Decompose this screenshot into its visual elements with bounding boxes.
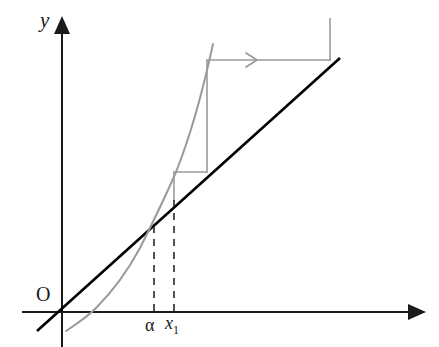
identity-line [37, 58, 340, 331]
function-curve [66, 44, 213, 331]
y-axis-label: y [40, 10, 49, 31]
x1-tick-label-subscript: 1 [173, 323, 179, 337]
x1-tick-label: x1 [165, 314, 179, 336]
figure-canvas: y O α x1 [0, 0, 439, 347]
x1-tick-label-base: x [165, 313, 173, 333]
alpha-tick-label: α [145, 316, 154, 334]
origin-label: O [36, 284, 50, 304]
cobweb-diagram-svg [0, 0, 439, 347]
